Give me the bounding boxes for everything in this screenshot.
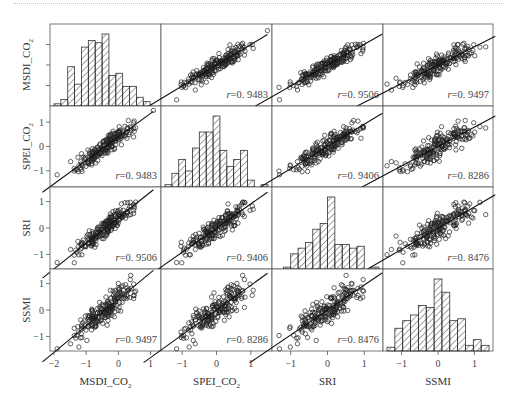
correlation-label: r=0. 9406	[226, 252, 268, 263]
histogram-bar	[123, 86, 130, 106]
y-tick-label: 0	[39, 305, 44, 316]
histogram-bar	[481, 345, 489, 351]
correlation-label: r=0. 8476	[447, 252, 489, 263]
y-tick-label: 1	[39, 196, 44, 207]
histogram-bar	[357, 246, 364, 269]
histogram-bar	[95, 43, 102, 106]
panel-ssmi-vs-spei-co2: r=0. 8286	[144, 269, 272, 363]
x-tick-label: 0	[325, 358, 330, 369]
histogram-bar	[411, 315, 419, 351]
panels-layer: r=0. 9483r=0. 9506r=0. 9497r=0. 9483r=0.…	[43, 24, 496, 363]
x-tick-label: 1	[362, 358, 367, 369]
correlation-label: r=0. 8476	[337, 334, 379, 345]
x-tick-label: −2	[49, 358, 60, 369]
x-tick-label: 0	[436, 358, 441, 369]
correlation-label: r=0. 9506	[115, 252, 157, 263]
histogram-bar	[68, 67, 75, 106]
histogram-bar	[403, 321, 411, 351]
histogram-bar	[458, 319, 466, 351]
histogram-bar	[298, 248, 305, 269]
histogram-bar	[350, 248, 357, 269]
x-tick-label: 1	[248, 358, 253, 369]
histogram-bar	[130, 86, 137, 106]
histogram-bar	[387, 347, 395, 351]
x-axis-label-spei-co2: SPEI_CO2	[193, 375, 240, 390]
histogram-bar	[172, 173, 179, 187]
histogram-bar	[418, 306, 426, 351]
x-tick-label: −1	[285, 358, 296, 369]
histogram-bar	[81, 47, 88, 106]
histogram-bar	[220, 150, 227, 187]
x-tick-label: 0	[116, 358, 121, 369]
histogram-bar	[328, 197, 335, 269]
x-axis-label-ssmi: SSMI	[425, 375, 451, 387]
panel-spei-co2-vs-spei-co2	[161, 106, 272, 187]
histogram-bar	[450, 321, 458, 351]
x-tick-label: −1	[81, 358, 92, 369]
histogram-bar	[465, 345, 473, 351]
y-tick-label: −1	[33, 249, 44, 260]
histogram-bar	[102, 34, 109, 106]
panel-ssmi-vs-msdi-co2: r=0. 9497	[43, 269, 162, 362]
histogram-bar	[335, 244, 342, 269]
y-axis-label-ssmi: SSMI	[20, 297, 32, 323]
histogram-bar	[234, 160, 241, 187]
panel-spei-co2-vs-msdi-co2: r=0. 9483	[43, 106, 162, 192]
y-axis-label-spei-co2: SPEI_CO2	[20, 123, 35, 170]
x-axis-label-msdi-co2: MSDI_CO2	[80, 375, 132, 390]
histogram-bar	[199, 132, 206, 187]
histogram-bar	[442, 292, 450, 351]
correlation-label: r=0. 9497	[447, 89, 489, 100]
histogram-bar	[313, 229, 320, 269]
histogram-bar	[75, 84, 82, 106]
histogram-bar	[395, 328, 403, 351]
scatter-matrix-chart: r=0. 9483r=0. 9506r=0. 9497r=0. 9483r=0.…	[0, 0, 512, 399]
y-tick-label: 1	[39, 117, 44, 128]
correlation-label: r=0. 9483	[226, 89, 268, 100]
histogram-bar	[213, 116, 220, 187]
histogram-bar	[116, 73, 123, 106]
histogram-bar	[192, 148, 199, 187]
panel-msdi-co2-vs-spei-co2: r=0. 9483	[144, 24, 272, 109]
x-tick-label: 1	[472, 358, 477, 369]
y-axis-label-sri: SRI	[20, 219, 32, 236]
panel-sri-vs-spei-co2: r=0. 9406	[144, 187, 272, 279]
correlation-label: r=0. 9483	[115, 170, 157, 181]
panel-sri-vs-sri	[272, 187, 383, 269]
histogram-bar	[241, 150, 248, 187]
x-tick-label: 0	[214, 358, 219, 369]
histogram-bar	[227, 166, 234, 187]
histogram-bar	[247, 180, 254, 187]
histogram-bar	[88, 41, 95, 106]
correlation-label: r=0. 9406	[337, 170, 379, 181]
x-axis-label-sri: SRI	[319, 375, 336, 387]
histogram-bar	[473, 340, 481, 351]
histogram-bar	[186, 171, 193, 187]
panel-sri-vs-msdi-co2: r=0. 9506	[43, 187, 162, 278]
histogram-bar	[426, 307, 434, 351]
correlation-label: r=0. 9497	[115, 334, 157, 345]
y-tick-label: 1	[39, 278, 44, 289]
y-tick-label: 0	[39, 141, 44, 152]
histogram-bar	[61, 99, 68, 106]
x-tick-label: 1	[148, 358, 153, 369]
x-tick-label: −1	[177, 358, 188, 369]
histogram-bar	[320, 224, 327, 269]
x-tick-label: −1	[396, 358, 407, 369]
histogram-bar	[305, 242, 312, 269]
y-axis-label-msdi-co2: MSDI_CO2	[20, 39, 35, 91]
histogram-bar	[291, 254, 298, 269]
panel-ssmi-vs-ssmi	[383, 269, 493, 351]
y-tick-label: 0	[39, 223, 44, 234]
histogram-bar	[136, 97, 143, 106]
y-tick-label: −1	[33, 165, 44, 176]
histogram-bar	[342, 244, 349, 269]
y-tick-label: −1	[33, 331, 44, 342]
histogram-bar	[206, 132, 213, 187]
histogram-bar	[179, 160, 186, 187]
correlation-label: r=0. 8286	[226, 334, 268, 345]
histogram-bar	[434, 279, 442, 351]
histogram-bar	[109, 75, 116, 106]
panel-msdi-co2-vs-msdi-co2	[50, 24, 161, 106]
correlation-label: r=0. 8286	[447, 170, 489, 181]
